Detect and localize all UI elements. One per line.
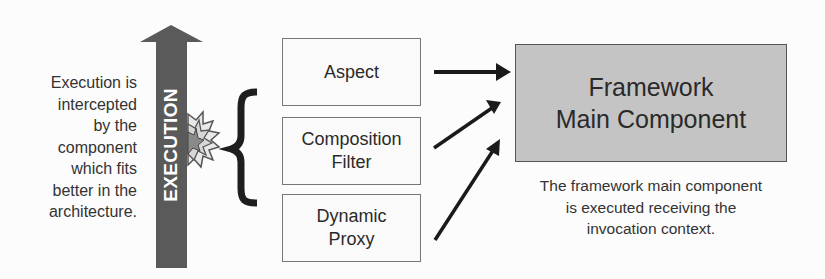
box-label: Dynamic [316,205,386,228]
dynamic-proxy-box: Dynamic Proxy [282,194,421,262]
box-label: Composition [301,128,401,151]
main-box-label: Main Component [556,103,746,135]
proxy-to-main-arrow [435,149,494,240]
box-label: Proxy [316,228,386,251]
main-component-caption: The framework main component is executed… [505,175,797,240]
caption-line: is executed receiving the [505,197,797,219]
caption-line: The framework main component [505,175,797,197]
box-label: Aspect [324,61,379,84]
box-label: Filter [301,151,401,174]
execution-label: EXECUTION [160,88,182,202]
composition-to-main-arrow [434,108,492,148]
curly-brace-icon [231,92,257,203]
caption-line: invocation context. [505,218,797,240]
explosion-burst-icon [188,112,219,167]
aspect-box: Aspect [282,38,421,106]
arrow-head [496,63,511,81]
main-box-label: Framework [588,71,713,103]
framework-main-component-box: Framework Main Component [515,44,787,162]
composition-filter-box: Composition Filter [282,117,421,185]
